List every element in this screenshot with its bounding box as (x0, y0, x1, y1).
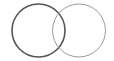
venn-circle-left (12, 4, 65, 57)
venn-diagram (0, 0, 114, 61)
venn-circle-right (53, 4, 106, 57)
